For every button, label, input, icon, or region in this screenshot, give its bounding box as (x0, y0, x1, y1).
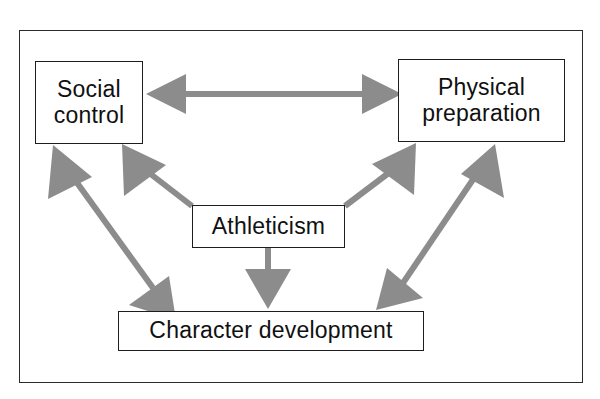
arrowhead-toward-character-development (376, 268, 423, 310)
arrowhead-toward-physical-preparation (372, 143, 416, 195)
arrowhead-toward-social-control (146, 74, 186, 114)
node-physical-preparation[interactable]: Physical preparation (398, 59, 565, 142)
arrowhead-toward-character-development (245, 269, 291, 309)
edge-athleticism-physical-preparation (345, 143, 416, 206)
node-character-development[interactable]: Character development (118, 311, 424, 351)
edge-shaft (345, 172, 390, 206)
arrowhead-toward-physical-preparation (362, 74, 402, 114)
edge-athleticism-social-control (122, 144, 192, 206)
node-athleticism[interactable]: Athleticism (192, 205, 345, 248)
node-social-control[interactable]: Social control (35, 61, 143, 144)
edge-shaft (148, 172, 192, 206)
edge-athleticism-character-development (245, 248, 291, 309)
edge-social-control-physical-preparation (146, 74, 402, 114)
arrowhead-toward-social-control (122, 144, 166, 196)
edge-shaft (75, 180, 153, 288)
diagram-figure: Social control Physical preparation Athl… (0, 0, 600, 399)
